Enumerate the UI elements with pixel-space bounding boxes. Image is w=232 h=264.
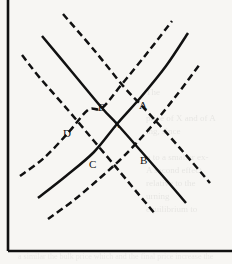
- curves-group: [20, 14, 210, 219]
- point-label-c: C: [89, 159, 96, 170]
- point-label-x: X: [113, 119, 121, 130]
- figure-root: The price of X and of A ing, since o to …: [0, 0, 232, 264]
- curve-supply-shifted-down: [48, 64, 200, 219]
- point-label-e: E: [98, 102, 105, 113]
- point-label-d: D: [63, 128, 71, 139]
- supply-demand-plot: [0, 0, 232, 264]
- curve-supply-shifted-up: [20, 21, 172, 176]
- point-label-b: B: [140, 155, 147, 166]
- curve-demand-shifted-left: [22, 55, 156, 215]
- curve-demand-shifted: [63, 14, 210, 183]
- point-label-a: A: [139, 100, 147, 111]
